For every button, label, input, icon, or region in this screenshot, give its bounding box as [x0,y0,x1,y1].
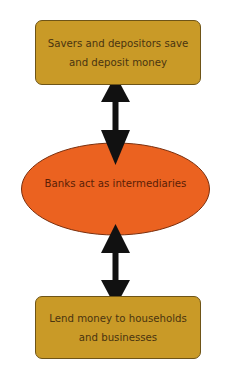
savers-box: Savers and depositors save and deposit m… [35,20,201,85]
lend-box: Lend money to households and businesses [35,296,201,359]
lend-line-1: Lend money to households [49,309,187,328]
savers-line-1: Savers and depositors save [48,34,189,53]
double-arrow-icon-lower [101,224,130,307]
savers-line-2: and deposit money [69,53,167,72]
banks-label: Banks act as intermediaries [21,178,210,189]
lend-line-2: and businesses [79,328,157,347]
